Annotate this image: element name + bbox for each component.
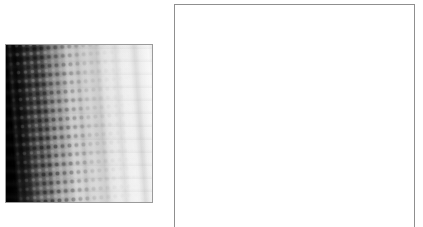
grayscale-image-canvas — [6, 45, 152, 202]
empty-panel-content — [175, 5, 414, 227]
canvas-root — [0, 0, 423, 227]
soft-highlight-layer — [6, 45, 152, 202]
grayscale-image-panel[interactable] — [5, 44, 153, 203]
empty-panel[interactable] — [174, 4, 415, 227]
